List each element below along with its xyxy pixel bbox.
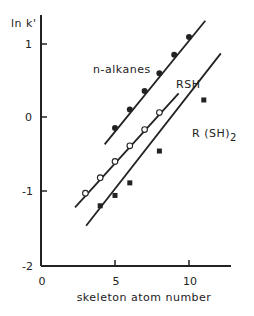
series-label-rsh2-sub: 2 — [230, 132, 237, 143]
data-point — [142, 88, 148, 94]
series-layer — [75, 21, 221, 226]
y-tick-label: -2 — [22, 260, 33, 273]
chart: 1 0 -1 -2 0 5 10 ln k' skeleton atom num… — [0, 0, 254, 316]
data-point — [127, 180, 132, 185]
data-point — [83, 190, 89, 196]
series-label-rsh2-main: R (SH) — [192, 127, 230, 140]
data-point — [112, 159, 118, 165]
series-label-rsh2: R (SH)2 — [192, 127, 237, 143]
data-point — [186, 34, 192, 40]
series-label-n-alkanes: n-alkanes — [93, 63, 151, 76]
x-tick-label: 10 — [183, 275, 197, 288]
data-point — [127, 107, 133, 113]
x-axis-title: skeleton atom number — [77, 291, 212, 304]
data-point — [157, 149, 162, 154]
data-point — [112, 125, 118, 131]
data-point — [157, 110, 163, 116]
data-point — [156, 70, 162, 76]
data-point — [98, 203, 103, 208]
y-axis-title: ln k' — [11, 17, 36, 30]
series-label-rsh: RSH — [176, 78, 200, 91]
fit-line — [75, 93, 179, 207]
series-rsh — [75, 93, 179, 207]
x-tick-label: 0 — [39, 275, 46, 288]
data-point — [142, 127, 148, 133]
data-point — [127, 143, 133, 149]
data-point — [201, 97, 206, 102]
y-tick-label: 0 — [25, 111, 32, 124]
data-point — [171, 52, 177, 58]
y-tick-label: -1 — [22, 185, 33, 198]
x-tick-label: 5 — [113, 275, 120, 288]
data-point — [113, 193, 118, 198]
data-point — [97, 175, 103, 181]
y-tick-label: 1 — [25, 38, 32, 51]
